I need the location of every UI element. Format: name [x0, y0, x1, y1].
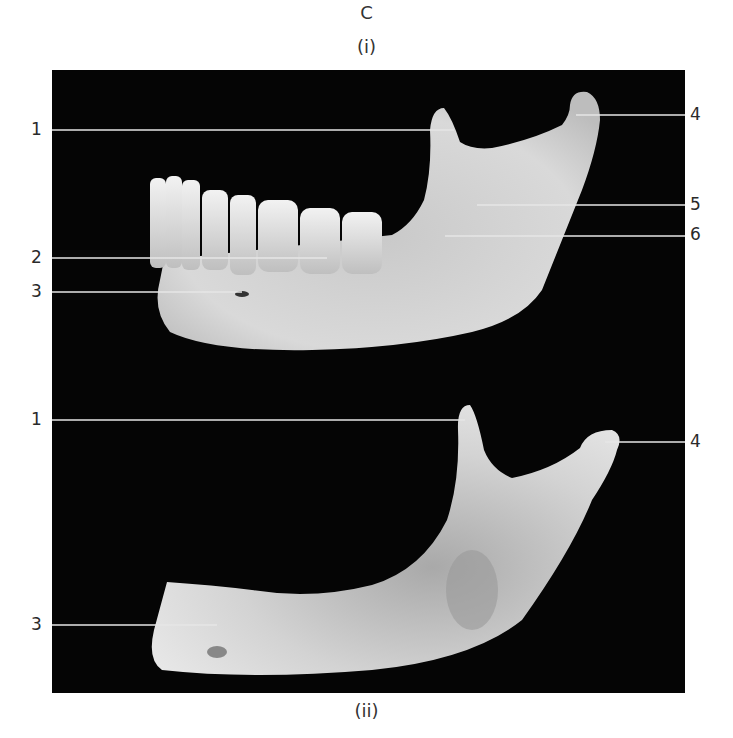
- view-ii-caption: (ii): [0, 700, 733, 721]
- label-1-i: 1: [31, 121, 42, 138]
- label-4-ii: 4: [690, 433, 701, 450]
- panel-letter: C: [0, 2, 733, 23]
- leader-lines: [52, 115, 685, 625]
- label-1-ii: 1: [31, 411, 42, 428]
- radiograph-illustration: [52, 70, 685, 693]
- label-4-i: 4: [690, 106, 701, 123]
- label-3-i: 3: [31, 283, 42, 300]
- edentulous-mandible: [152, 405, 620, 675]
- label-3-ii: 3: [31, 616, 42, 633]
- label-5-i: 5: [690, 196, 701, 213]
- radiograph-panel: [52, 70, 685, 693]
- label-2-i: 2: [31, 249, 42, 266]
- view-i-caption: (i): [0, 36, 733, 57]
- label-6-i: 6: [690, 226, 701, 243]
